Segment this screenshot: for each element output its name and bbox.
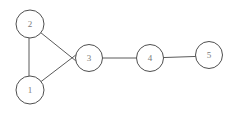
node-label-4: 4 (148, 53, 153, 63)
node-label-3: 3 (87, 53, 92, 63)
graph-canvas: 12345 (0, 0, 238, 115)
node-label-1: 1 (28, 85, 33, 95)
graph-diagram: 12345 (0, 0, 238, 115)
node-label-5: 5 (207, 50, 212, 60)
node-label-2: 2 (28, 19, 33, 29)
